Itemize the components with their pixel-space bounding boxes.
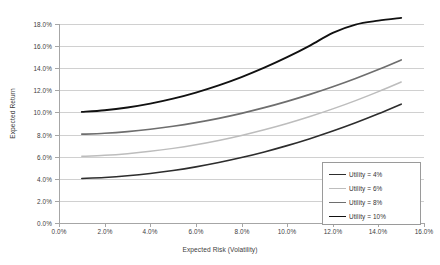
legend-color-swatch <box>329 188 346 189</box>
y-axis-title: Expected Return <box>9 59 16 169</box>
legend-color-swatch <box>329 174 346 175</box>
legend-color-swatch <box>329 216 346 217</box>
series-line <box>82 18 401 112</box>
legend-item[interactable]: Utility = 10% <box>323 209 420 223</box>
chart-legend: Utility = 4%Utility = 6%Utility = 8%Util… <box>322 162 421 225</box>
legend-item-label: Utility = 8% <box>349 199 382 206</box>
legend-item[interactable]: Utility = 4% <box>323 167 420 181</box>
legend-item[interactable]: Utility = 6% <box>323 181 420 195</box>
legend-item[interactable]: Utility = 8% <box>323 195 420 209</box>
legend-color-swatch <box>329 202 346 203</box>
chart-series-lines <box>0 0 440 265</box>
legend-item-label: Utility = 10% <box>349 213 386 220</box>
expected-risk-return-chart: 0.0%2.0%4.0%6.0%8.0%10.0%12.0%14.0%16.0%… <box>0 0 440 265</box>
series-line <box>82 82 401 156</box>
legend-item-label: Utility = 6% <box>349 185 382 192</box>
legend-item-label: Utility = 4% <box>349 171 382 178</box>
x-axis-title: Expected Risk (Volatility) <box>0 246 440 253</box>
